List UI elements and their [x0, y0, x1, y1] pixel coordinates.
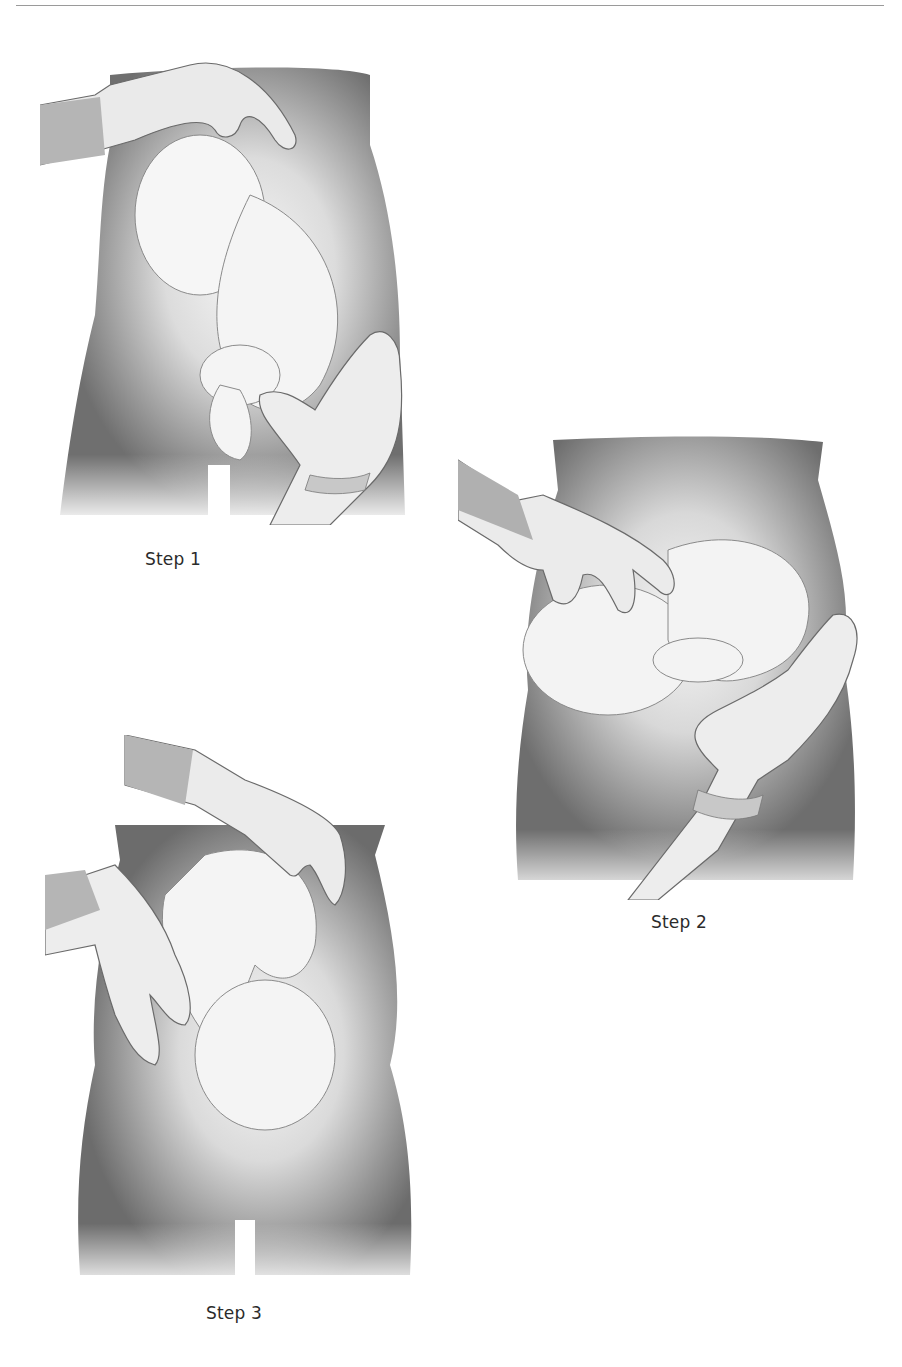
- caption-step-3: Step 3: [206, 1303, 262, 1323]
- illustration-step-2: [458, 430, 868, 900]
- caption-step-1: Step 1: [145, 549, 201, 569]
- figure-step-2: [458, 430, 868, 900]
- figure-step-3: [45, 735, 445, 1290]
- caption-step-2: Step 2: [651, 912, 707, 932]
- illustration-step-1: [40, 55, 440, 525]
- illustration-step-3: [45, 735, 445, 1290]
- top-rule: [16, 5, 884, 6]
- figure-step-1: [40, 55, 440, 525]
